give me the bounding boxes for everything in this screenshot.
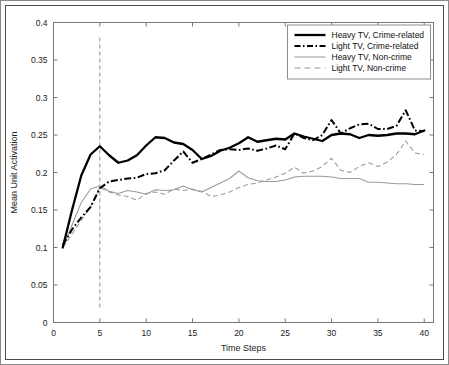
x-tick-label: 40 bbox=[419, 328, 429, 338]
x-axis-tick-labels: 0510152025303540 bbox=[51, 328, 429, 338]
y-tick-label: 0.1 bbox=[36, 243, 48, 253]
series-layer bbox=[63, 110, 424, 247]
x-tick-label: 20 bbox=[234, 328, 244, 338]
y-tick-label: 0.35 bbox=[31, 55, 48, 65]
legend-label: Light TV, Crime-related bbox=[332, 41, 419, 51]
x-tick-label: 30 bbox=[327, 328, 337, 338]
legend-label: Heavy TV, Non-crime bbox=[332, 52, 413, 62]
y-axis-title: Mean Unit Activation bbox=[9, 131, 19, 213]
y-tick-label: 0.4 bbox=[36, 18, 48, 28]
y-axis-tick-labels: 00.050.10.150.20.250.30.350.4 bbox=[31, 18, 48, 328]
series-line-heavy-tv-crime-related bbox=[63, 131, 424, 248]
legend-label: Light TV, Non-crime bbox=[332, 63, 407, 73]
y-tick-label: 0.05 bbox=[31, 280, 48, 290]
x-tick-label: 35 bbox=[373, 328, 383, 338]
series-line-light-tv-non-crime bbox=[63, 141, 424, 248]
x-tick-label: 25 bbox=[280, 328, 290, 338]
legend-label: Heavy TV, Crime-related bbox=[332, 30, 425, 40]
x-tick-label: 15 bbox=[188, 328, 198, 338]
y-tick-label: 0 bbox=[43, 318, 48, 328]
y-tick-label: 0.25 bbox=[31, 130, 48, 140]
y-tick-label: 0.15 bbox=[31, 205, 48, 215]
series-line-light-tv-crime-related bbox=[63, 110, 424, 245]
chart-canvas: 00.050.10.150.20.250.30.350.4 0510152025… bbox=[1, 1, 449, 365]
chart-legend: Heavy TV, Crime-relatedLight TV, Crime-r… bbox=[288, 25, 431, 79]
y-tick-label: 0.3 bbox=[36, 93, 48, 103]
line-chart: 00.050.10.150.20.250.30.350.4 0510152025… bbox=[1, 1, 449, 365]
figure-root: 00.050.10.150.20.250.30.350.4 0510152025… bbox=[0, 0, 449, 365]
x-tick-label: 0 bbox=[51, 328, 56, 338]
y-tick-label: 0.2 bbox=[36, 168, 48, 178]
x-axis-title: Time Steps bbox=[221, 343, 267, 353]
series-line-heavy-tv-non-crime bbox=[63, 171, 424, 248]
x-tick-label: 5 bbox=[97, 328, 102, 338]
x-tick-label: 10 bbox=[141, 328, 151, 338]
